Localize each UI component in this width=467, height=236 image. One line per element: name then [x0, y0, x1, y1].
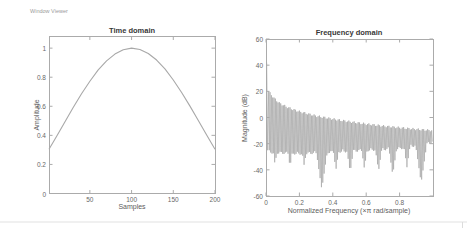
tick-label: 100: [126, 196, 137, 203]
tick-label: -40: [254, 166, 263, 173]
tick-label: 0: [259, 114, 263, 121]
tick-label: 1: [42, 45, 46, 52]
tick-label: 60: [256, 36, 263, 43]
edge-mark: [462, 222, 463, 228]
tick-label: 0.8: [37, 74, 46, 81]
tick-label: 0.6: [37, 103, 46, 110]
tick-label: 0.8: [395, 199, 404, 206]
freq-xlabel: Normalized Frequency (×π rad/sample): [288, 207, 411, 214]
tick-label: 0.4: [37, 132, 46, 139]
tick-label: 150: [168, 196, 179, 203]
tick-label: 0.6: [362, 199, 371, 206]
tick-label: 40: [256, 62, 263, 69]
tick-label: 0.4: [328, 199, 337, 206]
time-xlabel: Samples: [118, 203, 145, 210]
tick-label: 50: [86, 196, 93, 203]
tick-label: -60: [254, 193, 263, 200]
tick-label: 20: [256, 88, 263, 95]
freq-ylabel: Magnitude (dB): [241, 94, 248, 142]
wvtool-window: Window Viewer Time domain Amplitude Samp…: [0, 0, 467, 236]
tick-label: 0.2: [295, 199, 304, 206]
tick-label: 200: [210, 196, 221, 203]
freq-domain-title: Frequency domain: [316, 28, 383, 37]
time-domain-title: Time domain: [109, 26, 155, 35]
tick-label: -20: [254, 140, 263, 147]
bottom-edge-artifact: [0, 221, 467, 223]
tick-label: 0.2: [37, 161, 46, 168]
tick-label: 0: [42, 190, 46, 197]
tick-label: 0: [264, 199, 268, 206]
